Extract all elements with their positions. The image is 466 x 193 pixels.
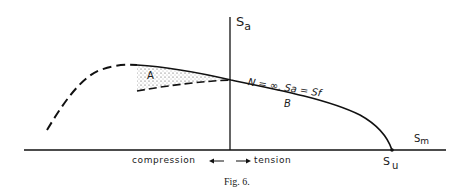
su-label: Su: [383, 155, 398, 168]
region-b-label: B: [284, 98, 291, 109]
x-axis-label-sub: m: [420, 136, 429, 146]
compression-label: compression: [132, 155, 196, 165]
dashed-compression-curve: [47, 65, 137, 130]
y-axis-label-sub: a: [244, 20, 251, 33]
su-point: [390, 148, 394, 152]
su-label-sub: u: [392, 160, 398, 171]
x-axis-label: Sm: [414, 133, 429, 144]
tension-arrowhead: [246, 159, 251, 164]
su-label-main: S: [383, 155, 390, 168]
figure-caption: Fig. 6.: [224, 176, 250, 187]
tension-label: tension: [254, 155, 291, 165]
y-axis-label: Sa: [236, 14, 251, 29]
region-a-label: A: [147, 70, 154, 81]
compression-arrowhead: [209, 159, 214, 164]
